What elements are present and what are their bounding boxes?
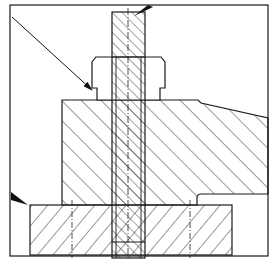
sectional-drawing [0,0,275,263]
clamp-block [62,100,268,205]
leader-arrow-nut [12,17,92,90]
leader-arrow-plate [11,192,28,205]
bolt [112,8,145,260]
